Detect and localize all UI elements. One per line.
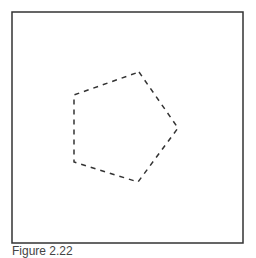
dashed-pentagon: [74, 72, 178, 182]
figure-caption: Figure 2.22: [12, 244, 73, 258]
figure-frame: [12, 12, 243, 243]
